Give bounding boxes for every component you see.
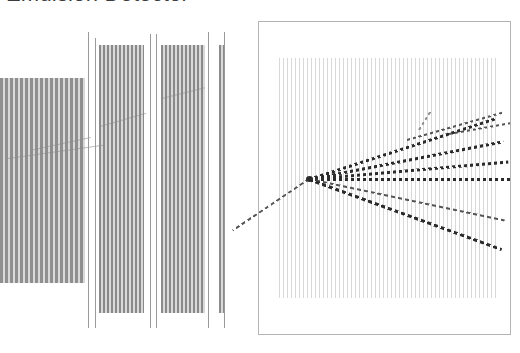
band-1 xyxy=(0,78,85,283)
event-display-panel xyxy=(258,21,511,335)
emulsion-detector-figure: Emulsion Detector xyxy=(0,0,520,353)
separator-4 xyxy=(156,34,157,328)
interaction-vertex xyxy=(306,176,313,182)
separator-5 xyxy=(208,32,209,328)
emulsion-film-stacks-panel xyxy=(0,0,250,353)
separator-1 xyxy=(88,32,89,328)
separator-3 xyxy=(150,34,151,328)
separator-6 xyxy=(224,32,225,328)
outgoing-track-4 xyxy=(309,178,511,181)
band-3 xyxy=(161,45,205,313)
band-2 xyxy=(99,45,144,313)
separator-2 xyxy=(95,38,96,328)
